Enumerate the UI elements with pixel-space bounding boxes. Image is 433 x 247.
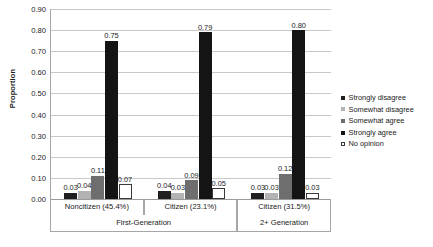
bar: [158, 191, 171, 199]
y-axis-tick-label: 0.60: [16, 68, 46, 77]
legend-swatch-no-opinion: [341, 142, 345, 146]
y-axis-tick-label: 0.70: [16, 47, 46, 56]
legend: Strongly disagree Somewhat disagree Some…: [341, 92, 433, 150]
bar: [185, 180, 198, 199]
bar-value-label: 0.04: [77, 181, 91, 190]
bar: [212, 188, 225, 199]
legend-label: Strongly disagree: [349, 94, 407, 101]
bar-value-label: 0.79: [198, 23, 212, 32]
legend-swatch-somewhat-disagree: [341, 107, 345, 111]
bar-chart: Proportion 0.000.100.200.300.400.500.600…: [0, 0, 433, 247]
category-label: Noncitizen (45.4%): [65, 202, 129, 211]
bar-value-label: 0.75: [104, 31, 118, 40]
legend-label: No opinion: [349, 140, 384, 147]
y-axis-tick-label: 0.00: [16, 195, 46, 204]
legend-swatch-strongly-disagree: [341, 96, 345, 100]
y-axis-tick-label: 0.30: [16, 131, 46, 140]
legend-swatch-strongly-agree: [341, 131, 345, 135]
generation-label: 2+ Generation: [260, 218, 308, 227]
bar-value-label: 0.09: [184, 171, 198, 180]
y-axis-tick-label: 0.10: [16, 173, 46, 182]
legend-item: Strongly disagree: [341, 92, 433, 104]
bar-series-container: 0.030.040.110.750.070.040.030.090.790.05…: [51, 9, 331, 199]
category-label: Citizen (31.5%): [258, 202, 310, 211]
legend-item: Strongly agree: [341, 127, 433, 139]
legend-item: Somewhat agree: [341, 115, 433, 127]
y-axis-tick-label: 0.50: [16, 89, 46, 98]
bar: [279, 174, 292, 199]
bar-value-label: 0.11: [91, 166, 105, 175]
bar-value-label: 0.03: [171, 183, 185, 192]
legend-label: Somewhat disagree: [349, 106, 414, 113]
bar: [292, 30, 305, 199]
bar-value-label: 0.04: [157, 181, 171, 190]
y-axis-tick-label: 0.90: [16, 5, 46, 14]
bar-value-label: 0.05: [211, 179, 225, 188]
bar: [119, 184, 132, 199]
bar: [91, 176, 104, 199]
category-label: Citizen (23.1%): [165, 202, 217, 211]
legend-label: Somewhat agree: [349, 117, 405, 124]
bar-value-label: 0.80: [292, 21, 306, 30]
bar: [78, 191, 91, 199]
bar-value-label: 0.03: [251, 183, 265, 192]
bar-value-label: 0.03: [63, 183, 77, 192]
bar-value-label: 0.03: [264, 183, 278, 192]
bar-value-label: 0.07: [118, 175, 132, 184]
legend-swatch-somewhat-agree: [341, 119, 345, 123]
bar-value-label: 0.12: [278, 164, 292, 173]
plot-area: 0.030.040.110.750.070.040.030.090.790.05…: [50, 9, 331, 199]
y-axis-tick-label: 0.20: [16, 152, 46, 161]
bar: [105, 41, 118, 199]
generation-label: First-Generation: [116, 218, 171, 227]
y-axis-tick-label: 0.80: [16, 26, 46, 35]
legend-item: Somewhat disagree: [341, 104, 433, 116]
legend-label: Strongly agree: [349, 129, 397, 136]
bar: [199, 32, 212, 199]
legend-item: No opinion: [341, 138, 433, 150]
bar-value-label: 0.03: [305, 183, 319, 192]
y-axis-tick-label: 0.40: [16, 110, 46, 119]
